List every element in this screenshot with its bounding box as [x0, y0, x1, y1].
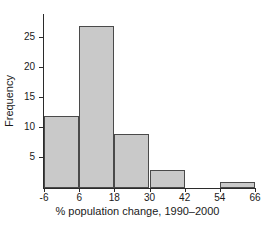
- histogram-bar: [44, 116, 79, 188]
- plot-area: 510152025: [44, 14, 255, 188]
- x-axis-tick-label: 66: [235, 191, 275, 204]
- histogram-figure: 510152025 Frequency % population change,…: [0, 0, 275, 227]
- x-axis-tick-label: 54: [200, 191, 240, 204]
- y-axis-tick: 15: [39, 97, 44, 98]
- y-axis-tick: 25: [39, 37, 44, 38]
- y-axis-tick-label: 25: [24, 30, 35, 43]
- y-axis-tick-label: 20: [24, 60, 35, 73]
- y-axis-tick-label: 5: [29, 150, 35, 163]
- y-axis-tick: 10: [39, 127, 44, 128]
- x-axis-title: % population change, 1990–2000: [0, 205, 275, 217]
- x-axis-tick-label: 18: [94, 191, 134, 204]
- histogram-bar: [150, 170, 185, 188]
- x-axis-tick-label: 30: [130, 191, 170, 204]
- histogram-bar: [114, 134, 149, 188]
- y-axis-tick-label: 15: [24, 90, 35, 103]
- y-axis-tick: 5: [39, 157, 44, 158]
- histogram-bar: [79, 26, 114, 188]
- y-axis-tick: 20: [39, 67, 44, 68]
- y-axis-tick-label: 10: [24, 120, 35, 133]
- x-axis-tick-label: 42: [165, 191, 205, 204]
- histogram-bar: [220, 182, 255, 188]
- x-axis-tick-label: -6: [24, 191, 64, 204]
- x-axis-tick-label: 6: [59, 191, 99, 204]
- y-axis-title: Frequency: [2, 14, 16, 188]
